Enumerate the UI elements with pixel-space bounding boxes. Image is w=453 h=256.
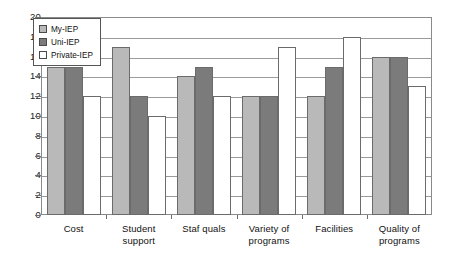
legend-item[interactable]: My-IEP <box>39 23 95 35</box>
bar-group <box>177 17 231 215</box>
legend-item-label: Private-IEP <box>51 51 93 60</box>
legend-item[interactable]: Uni-IEP <box>39 36 95 48</box>
bar <box>130 96 148 215</box>
bar <box>213 96 231 215</box>
bar <box>372 57 390 215</box>
x-axis-label-line: programs <box>353 235 445 247</box>
bar <box>390 57 408 215</box>
x-tick-mark <box>171 215 172 219</box>
bar <box>112 47 130 215</box>
bar <box>242 96 260 215</box>
bar <box>177 76 195 215</box>
bar-group <box>372 17 426 215</box>
bar <box>278 47 296 215</box>
legend-swatch-uni-iep <box>39 38 47 46</box>
bar-group <box>242 17 296 215</box>
legend-swatch-my-iep <box>39 25 47 33</box>
bar-group <box>307 17 361 215</box>
legend-swatch-private-iep <box>39 51 47 59</box>
x-axis-label-line: Quality of <box>353 223 445 235</box>
bar <box>83 96 101 215</box>
bar <box>307 96 325 215</box>
bar <box>343 37 361 215</box>
bar-group <box>112 17 166 215</box>
legend-item-label: Uni-IEP <box>51 38 80 47</box>
bar <box>195 67 213 216</box>
x-axis-label-line: support <box>93 235 185 247</box>
x-axis: CostStudentsupportStaf qualsVariety ofpr… <box>41 215 432 256</box>
x-axis-label: Quality ofprograms <box>353 223 445 246</box>
bar <box>325 67 343 216</box>
bar-chart: 20181614121086420 CostStudentsupportStaf… <box>0 0 453 256</box>
bar <box>408 86 426 215</box>
bar <box>47 67 65 216</box>
bar <box>260 96 278 215</box>
x-tick-mark <box>367 215 368 219</box>
chart-legend: My-IEPUni-IEPPrivate-IEP <box>33 18 101 66</box>
x-tick-mark <box>237 215 238 219</box>
legend-item[interactable]: Private-IEP <box>39 49 95 61</box>
x-tick-mark <box>302 215 303 219</box>
legend-item-label: My-IEP <box>51 25 78 34</box>
x-tick-mark <box>106 215 107 219</box>
x-axis-label-line: programs <box>223 235 315 247</box>
bar <box>65 67 83 216</box>
bar <box>148 116 166 215</box>
